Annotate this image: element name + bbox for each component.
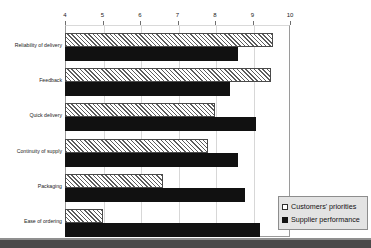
bar-customers-priorities: [65, 33, 273, 47]
bar-customers-priorities: [65, 209, 103, 223]
x-axis-tick-label: 4: [55, 11, 75, 19]
bar-supplier-performance: [65, 223, 260, 237]
legend-label: Supplier performance: [291, 215, 360, 224]
chart-category-row: Feedback: [0, 60, 371, 95]
filled-square-icon: [282, 217, 288, 223]
x-axis-tick-label: 7: [168, 11, 188, 19]
legend-item[interactable]: Customers' priorities: [282, 200, 365, 213]
bar-supplier-performance: [65, 188, 245, 202]
x-axis-tick-label: 8: [205, 11, 225, 19]
bar-supplier-performance: [65, 47, 238, 61]
category-label: Continuity of supply: [0, 148, 62, 155]
hatched-square-icon: [282, 204, 288, 210]
legend-label: Customers' priorities: [291, 202, 356, 211]
category-label: Ease of ordering: [0, 218, 62, 225]
bar-supplier-performance: [65, 153, 238, 167]
bar-customers-priorities: [65, 68, 271, 82]
category-label: Reliability of delivery: [0, 42, 62, 49]
x-axis-tick-label: 9: [243, 11, 263, 19]
bar-chart: 45678910 Reliability of deliveryFeedback…: [0, 0, 371, 248]
x-axis-tick-label: 6: [130, 11, 150, 19]
chart-category-row: Quick delivery: [0, 96, 371, 131]
bar-supplier-performance: [65, 117, 256, 131]
page-edge: [0, 240, 371, 248]
category-label: Packaging: [0, 183, 62, 190]
bar-customers-priorities: [65, 103, 215, 117]
legend-item[interactable]: Supplier performance: [282, 213, 365, 226]
bar-supplier-performance: [65, 82, 230, 96]
chart-legend: Customers' prioritiesSupplier performanc…: [278, 196, 368, 230]
x-axis-tick-label: 10: [280, 11, 300, 19]
bar-customers-priorities: [65, 174, 163, 188]
chart-category-row: Continuity of supply: [0, 131, 371, 166]
category-label: Feedback: [0, 77, 62, 84]
category-label: Quick delivery: [0, 112, 62, 119]
chart-category-row: Reliability of delivery: [0, 25, 371, 60]
bar-customers-priorities: [65, 139, 208, 153]
x-axis-tick-label: 5: [93, 11, 113, 19]
